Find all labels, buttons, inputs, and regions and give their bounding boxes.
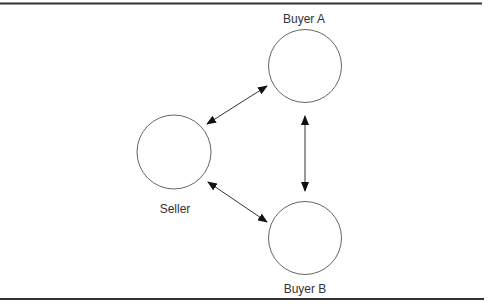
node-label-buyer-a: Buyer A bbox=[283, 12, 325, 26]
node-label-seller: Seller bbox=[160, 202, 191, 216]
node-label-buyer-b: Buyer B bbox=[284, 282, 327, 296]
edge-seller-buyer-b bbox=[208, 182, 267, 222]
edge-seller-buyer-a bbox=[207, 86, 267, 124]
node-seller: Seller bbox=[137, 115, 211, 216]
node-buyer-b: Buyer B bbox=[269, 202, 342, 297]
node-buyer-a: Buyer A bbox=[269, 12, 342, 103]
network-diagram: Buyer A Seller Buyer B bbox=[0, 0, 492, 306]
